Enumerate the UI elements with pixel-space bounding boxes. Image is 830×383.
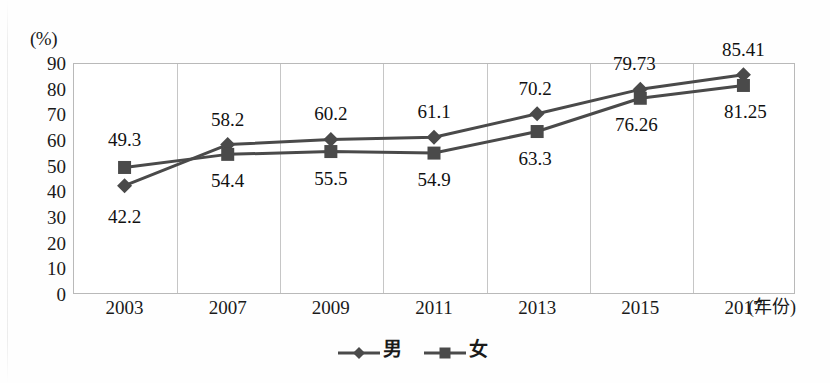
y-axis-tick: 30 bbox=[47, 208, 66, 227]
y-axis-tick: 40 bbox=[47, 182, 66, 201]
diamond-marker-icon bbox=[117, 178, 132, 193]
y-axis-tick: 80 bbox=[47, 79, 66, 98]
x-axis-tick: 2013 bbox=[518, 298, 556, 317]
x-axis-tick: 2011 bbox=[415, 298, 452, 317]
legend-item-1[interactable]: 男 bbox=[338, 340, 402, 359]
y-axis-tick: 70 bbox=[47, 105, 66, 124]
data-label: 42.2 bbox=[108, 206, 141, 225]
y-axis-tick: 90 bbox=[47, 54, 66, 73]
data-label: 49.3 bbox=[108, 130, 141, 149]
diamond-marker-icon bbox=[427, 130, 442, 145]
diamond-marker-icon bbox=[530, 106, 545, 121]
y-axis-tick: 50 bbox=[47, 156, 66, 175]
data-label: 54.4 bbox=[211, 171, 244, 190]
square-marker-icon bbox=[428, 147, 441, 160]
square-marker-icon bbox=[221, 148, 234, 161]
y-axis-unit-label: (%) bbox=[30, 28, 57, 50]
square-marker-icon bbox=[531, 125, 544, 138]
y-axis-tick: 10 bbox=[47, 259, 66, 278]
data-label: 70.2 bbox=[519, 78, 552, 97]
data-label: 60.2 bbox=[314, 104, 347, 123]
data-label: 76.26 bbox=[615, 115, 658, 134]
square-marker-icon bbox=[118, 161, 131, 174]
data-label: 63.3 bbox=[519, 148, 552, 167]
y-axis-tick: 60 bbox=[47, 131, 66, 150]
square-marker-icon bbox=[737, 79, 750, 92]
data-label: 85.41 bbox=[722, 39, 765, 58]
square-marker-icon bbox=[424, 343, 466, 357]
square-marker-icon bbox=[634, 92, 647, 105]
y-axis-tick: 20 bbox=[47, 233, 66, 252]
x-axis-tick: 2009 bbox=[312, 298, 350, 317]
data-label: 81.25 bbox=[724, 102, 767, 121]
square-marker-icon bbox=[324, 145, 337, 158]
legend-label: 男 bbox=[383, 340, 402, 359]
data-label: 61.1 bbox=[417, 102, 450, 121]
data-label: 55.5 bbox=[314, 168, 347, 187]
diamond-marker-icon bbox=[323, 132, 338, 147]
x-axis-tick-labels: 2003200720092011201320152017 bbox=[73, 298, 795, 328]
y-axis-tick: 0 bbox=[57, 285, 67, 304]
x-axis-tick: 2015 bbox=[621, 298, 659, 317]
chart-figure: (%) 9080706050403020100 42.258.260.261.1… bbox=[0, 0, 830, 383]
diamond-marker-icon bbox=[338, 343, 380, 357]
data-label: 79.73 bbox=[613, 54, 656, 73]
chart-legend: 男女 bbox=[338, 340, 488, 359]
x-axis-tick: 2003 bbox=[106, 298, 144, 317]
x-axis-title: (年份) bbox=[748, 298, 796, 316]
y-axis-tick-labels: 9080706050403020100 bbox=[0, 63, 66, 294]
legend-item-2[interactable]: 女 bbox=[424, 340, 488, 359]
x-axis-tick: 2007 bbox=[209, 298, 247, 317]
legend-label: 女 bbox=[469, 340, 488, 359]
data-label: 54.9 bbox=[417, 170, 450, 189]
data-label: 58.2 bbox=[211, 109, 244, 128]
